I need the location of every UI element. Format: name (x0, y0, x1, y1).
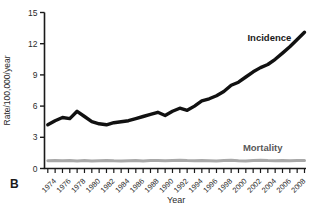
panel-label: B (10, 177, 19, 191)
y-axis-title: Rate/100,000/year (2, 55, 12, 125)
incidence-line (48, 32, 305, 125)
x-tick-label: 1982 (99, 177, 117, 195)
x-tick-label: 1992 (172, 177, 190, 195)
x-tick-label: 1990 (157, 177, 175, 195)
x-tick-label: 1998 (216, 177, 234, 195)
mortality-line (48, 160, 305, 161)
y-tick-label: 9 (33, 70, 38, 80)
x-tick-label: 1984 (113, 177, 131, 195)
y-tick-label: 12 (28, 39, 38, 49)
x-axis-title: Year (167, 195, 185, 205)
x-tick-label: 1976 (55, 177, 73, 195)
x-tick-label: 1980 (84, 177, 102, 195)
x-tick-label: 1974 (40, 177, 58, 195)
x-tick-label: 2004 (260, 177, 278, 195)
y-tick-label: 0 (33, 164, 38, 174)
x-tick-label: 2000 (231, 177, 249, 195)
figure-panel-b: 0369121519741976197819801982198419861988… (0, 0, 319, 212)
x-tick-label: 1988 (143, 177, 161, 195)
incidence-series-label: Incidence (247, 32, 291, 43)
y-tick-label: 6 (33, 101, 38, 111)
y-tick-label: 3 (33, 132, 38, 142)
x-tick-label: 1994 (187, 177, 205, 195)
y-tick-label: 15 (28, 8, 38, 18)
rate-by-year-line-chart: 0369121519741976197819801982198419861988… (0, 0, 319, 212)
mortality-series-label: Mortality (243, 142, 283, 153)
x-tick-label: 1978 (69, 177, 87, 195)
x-tick-label: 2008 (289, 177, 307, 195)
x-tick-label: 1986 (128, 177, 146, 195)
x-tick-label: 2006 (275, 177, 293, 195)
x-tick-label: 2002 (245, 177, 263, 195)
x-tick-label: 1996 (201, 177, 219, 195)
